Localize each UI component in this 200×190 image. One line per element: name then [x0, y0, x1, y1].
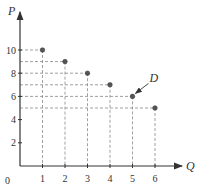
origin-label: 0 — [5, 175, 10, 186]
x-tick-label: 3 — [85, 173, 90, 184]
data-points — [40, 48, 157, 111]
y-tick-label: 10 — [6, 45, 16, 56]
demand-schedule-chart: PQ 0123456246810 D — [0, 0, 200, 190]
y-tick-label: 2 — [11, 137, 16, 148]
annotations: D — [136, 71, 159, 93]
axes: PQ — [7, 4, 195, 173]
data-point — [153, 106, 158, 111]
data-point — [40, 48, 45, 53]
x-tick-label: 6 — [153, 173, 158, 184]
projection-lines — [20, 50, 155, 166]
data-point — [63, 59, 68, 64]
tick-labels: 0123456246810 — [5, 45, 158, 187]
x-tick-label: 4 — [108, 173, 113, 184]
data-point — [130, 94, 135, 99]
x-tick-label: 2 — [63, 173, 68, 184]
point-d-label: D — [149, 71, 159, 85]
y-tick-label: 8 — [11, 68, 16, 79]
y-tick-label: 6 — [11, 91, 16, 102]
y-tick-label: 4 — [11, 114, 16, 125]
x-tick-label: 5 — [130, 173, 135, 184]
y-axis-label: P — [7, 4, 16, 18]
x-axis-label: Q — [186, 159, 195, 173]
annotation-arrow — [136, 83, 149, 93]
data-point — [108, 83, 113, 88]
data-point — [85, 71, 90, 76]
x-tick-label: 1 — [40, 173, 45, 184]
